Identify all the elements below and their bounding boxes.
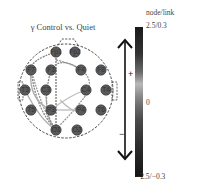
electrode-label: T4 [102, 86, 110, 93]
double-arrow-icon [118, 40, 132, 159]
colorbar-max-label: 2.5/0.3 [146, 21, 167, 30]
electrode-t4: T4 [101, 85, 111, 95]
electrode-label: T6 [97, 106, 105, 113]
electrode-fp1: Fp1 [50, 47, 62, 57]
electrode-label: O1 [52, 126, 61, 133]
electrode-label: F8 [97, 66, 105, 73]
electrode-label: P4 [77, 106, 85, 113]
electrode-p3: P3 [46, 105, 56, 115]
electrode-f7: F7 [26, 65, 36, 75]
electrode-label: C4 [82, 86, 91, 93]
electrode-label: Fp2 [69, 48, 81, 56]
colorbar-min-label: −2.5/−0.3 [136, 172, 165, 181]
electrode-label: O2 [73, 126, 82, 133]
electrode-c4: C4 [81, 85, 91, 95]
electrode-c3: C3 [41, 85, 51, 95]
electrode-f8: F8 [96, 65, 106, 75]
minus-label: − [119, 129, 124, 139]
colorbar [135, 27, 143, 177]
electrode-o1: O1 [51, 125, 61, 135]
electrode-label: F4 [77, 66, 85, 73]
plus-label: + [128, 69, 133, 79]
electrode-o2: O2 [72, 125, 82, 135]
electrode-label: C3 [42, 86, 51, 93]
electrode-label: P3 [47, 106, 55, 113]
electrode-f4: F4 [76, 65, 86, 75]
connectivity-links [25, 52, 89, 130]
electrode-label: T3 [21, 86, 29, 93]
electrode-fp2: Fp2 [69, 47, 81, 57]
scalp-map: Fp1Fp2F7F3F4F8T3C3C4T4T5P3P4T6O1O2 + − [0, 0, 205, 188]
colorbar-header: node/link [146, 8, 174, 17]
electrode-label: F3 [47, 66, 55, 73]
electrode-p4: P4 [76, 105, 86, 115]
electrode-t6: T6 [96, 105, 106, 115]
electrode-label: Fp1 [50, 48, 62, 56]
colorbar-mid-label: 0 [146, 98, 150, 107]
electrode-label: T5 [27, 106, 35, 113]
electrode-f3: F3 [46, 65, 56, 75]
electrode-t5: T5 [26, 105, 36, 115]
electrode-label: F7 [27, 66, 35, 73]
electrode-t3: T3 [20, 85, 30, 95]
